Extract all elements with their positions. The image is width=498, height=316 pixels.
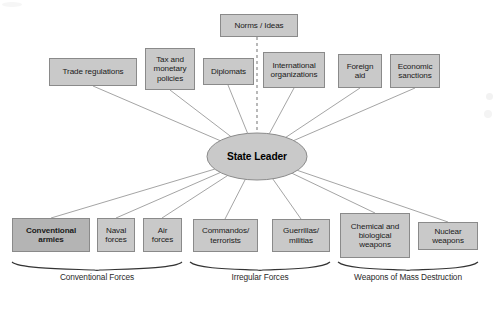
group-label-conventional-forces: Conventional Forces <box>27 266 167 290</box>
group-label-irregular-forces: Irregular Forces <box>190 266 330 290</box>
bottom-box-chemical-and-biological-weapons[interactable]: Chemical and biological weapons <box>340 213 410 258</box>
bottom-box-air-forces[interactable]: Air forces <box>143 218 182 252</box>
top-box-economic-sanctions[interactable]: Economic sanctions <box>390 54 440 88</box>
top-box-foreign-aid[interactable]: Foreign aid <box>338 54 382 88</box>
connector-line <box>286 88 360 137</box>
top-box-diplomats[interactable]: Diplomats <box>203 58 254 85</box>
top-box-norms-ideas[interactable]: Norms / Ideas <box>220 14 298 37</box>
bottom-box-commandos-terrorists[interactable]: Commandos/ terrorists <box>193 219 258 252</box>
top-box-international-organizations[interactable]: International organizations <box>263 52 325 88</box>
connector-line <box>225 179 245 219</box>
connector-line <box>228 85 248 133</box>
connector-line <box>269 88 294 134</box>
state-leader-label: State Leader <box>207 148 307 166</box>
connector-line <box>273 179 301 219</box>
bottom-box-nuclear-weapons[interactable]: Nuclear weapons <box>418 222 478 250</box>
top-box-tax-and-monetary-policies[interactable]: Tax and monetary policies <box>145 48 195 90</box>
connector-line <box>116 172 220 218</box>
bottom-box-naval-forces[interactable]: Naval forces <box>97 218 135 252</box>
bottom-box-guerrillas-militias[interactable]: Guerrillas/ militias <box>272 219 330 252</box>
group-label-weapons-of-mass-destruction: Weapons of Mass Destruction <box>338 266 478 290</box>
top-box-trade-regulations[interactable]: Trade regulations <box>49 58 137 86</box>
diagram-canvas: State Leader Norms / IdeasTrade regulati… <box>0 0 498 316</box>
connector-line <box>170 90 231 136</box>
bottom-box-conventional-armies[interactable]: Conventional armies <box>12 218 90 252</box>
connector-line <box>294 88 415 141</box>
connector-lines-top <box>93 85 415 141</box>
